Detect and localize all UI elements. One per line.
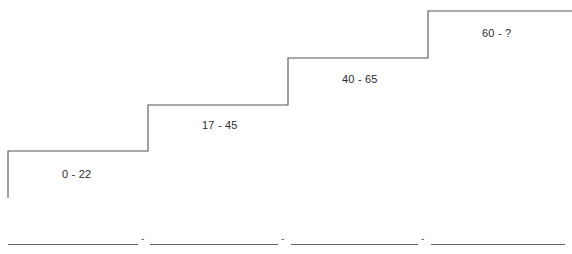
- step-label-40-65: 40 - 65: [342, 73, 378, 86]
- staircase-diagram: UK Residents 0 - 22 17 - 45 40 - 65 60 -…: [0, 0, 572, 254]
- step-label-17-45: 17 - 45: [202, 119, 238, 132]
- baseline-divider-tick-3: -: [421, 234, 424, 244]
- baseline-divider-tick-1: -: [141, 234, 144, 244]
- step-label-0-22: 0 - 22: [62, 168, 91, 181]
- step-label-60-unknown: 60 - ?: [482, 27, 511, 40]
- baseline-divider-tick-2: -: [281, 234, 284, 244]
